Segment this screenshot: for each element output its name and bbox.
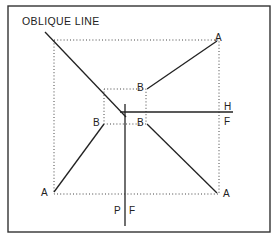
line-ab-bottom-right (147, 124, 217, 193)
oblique-line-diagram: OBLIQUE LINE A A A B B B H F P F (0, 0, 273, 238)
oblique-line (45, 32, 126, 117)
label-b-top-right: B (137, 82, 144, 93)
line-ab-bottom-left (54, 124, 104, 192)
label-h: H (224, 101, 231, 112)
label-b-right: B (137, 117, 144, 128)
label-a-bottom-right: A (223, 188, 230, 199)
label-p: P (114, 205, 121, 216)
label-a-bottom-left: A (41, 187, 48, 198)
label-f-right: F (224, 116, 230, 127)
label-b-left: B (93, 117, 100, 128)
line-ab-top-right (147, 41, 217, 89)
label-a-top-right: A (215, 32, 222, 43)
label-f-bottom: F (129, 205, 135, 216)
diagram-title: OBLIQUE LINE (22, 15, 100, 27)
